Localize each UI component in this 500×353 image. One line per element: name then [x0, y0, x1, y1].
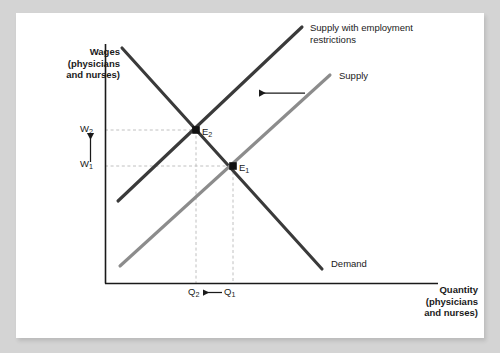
x-tick-label-q1: Q1 — [224, 286, 235, 300]
equilibrium-point-e2 — [192, 126, 200, 134]
y-axis-title: Wages (physicians and nurses) — [60, 46, 120, 81]
x-axis-title: Quantity (physicians and nurses) — [378, 284, 478, 319]
figure-page: Wages (physicians and nurses) Quantity (… — [0, 0, 500, 353]
equilibrium-label-e1: E1 — [239, 162, 249, 176]
demand-label: Demand — [331, 258, 367, 270]
supply-restricted-label: Supply with employment restrictions — [310, 22, 430, 45]
y-tick-label-w1: W1 — [80, 158, 93, 172]
axes — [105, 44, 438, 284]
y-tick-label-w2: W2 — [80, 123, 93, 137]
equilibrium-point-e1 — [229, 162, 237, 170]
supply-label: Supply — [339, 70, 368, 82]
equilibrium-label-e2: E2 — [202, 126, 212, 140]
x-tick-label-q2: Q2 — [188, 286, 199, 300]
supply-restricted-curve — [118, 27, 302, 201]
